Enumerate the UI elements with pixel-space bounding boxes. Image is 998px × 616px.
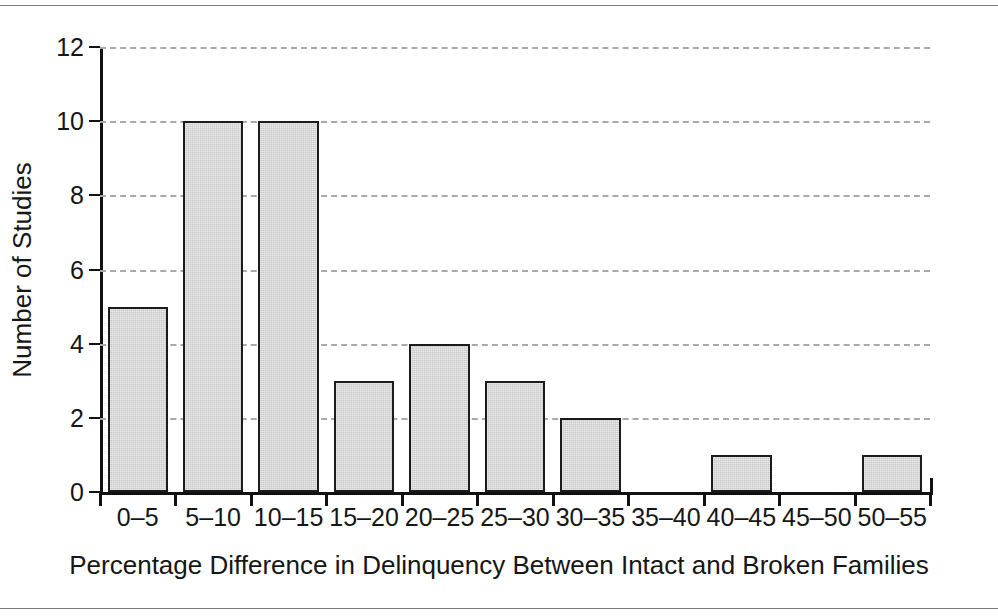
y-tick-mark	[89, 417, 100, 419]
chart-figure: Number of Studies 024681012 0–55–1010–15…	[0, 0, 998, 616]
y-axis-title-container: Number of Studies	[18, 47, 58, 492]
plot-area: 024681012	[100, 47, 930, 492]
x-tick-mark	[854, 492, 857, 506]
x-tick-label: 20–25	[402, 505, 477, 530]
x-tick-mark	[778, 492, 781, 506]
x-axis-line	[100, 492, 933, 495]
y-tick-mark	[89, 269, 100, 271]
y-axis-title: Number of Studies	[7, 100, 38, 440]
y-tick-mark	[89, 46, 100, 48]
y-tick-label: 0	[70, 480, 84, 505]
y-tick-mark	[89, 194, 100, 196]
x-tick-mark	[627, 492, 630, 506]
figure-bottom-rule	[0, 608, 998, 609]
x-tick-label: 45–50	[779, 505, 854, 530]
x-tick-label: 15–20	[326, 505, 401, 530]
y-tick-label: 4	[70, 331, 84, 356]
x-tick-label: 40–45	[704, 505, 779, 530]
bar	[258, 121, 318, 492]
y-tick-mark	[89, 343, 100, 345]
gridline	[100, 47, 930, 49]
bar	[862, 455, 922, 492]
x-tick-label: 0–5	[100, 505, 175, 530]
y-tick-mark	[89, 120, 100, 122]
bar	[711, 455, 771, 492]
bar	[334, 381, 394, 492]
x-tick-label: 30–35	[553, 505, 628, 530]
bar	[485, 381, 545, 492]
x-tick-label: 35–40	[628, 505, 703, 530]
x-tick-mark	[325, 492, 328, 506]
x-tick-mark	[929, 492, 932, 506]
x-tick-label: 25–30	[477, 505, 552, 530]
y-tick-label: 8	[70, 183, 84, 208]
x-axis-title: Percentage Difference in Delinquency Bet…	[0, 550, 998, 581]
bar	[560, 418, 620, 492]
bar	[183, 121, 243, 492]
x-tick-mark	[250, 492, 253, 506]
y-tick-label: 12	[56, 35, 84, 60]
x-tick-mark	[99, 492, 102, 506]
x-tick-mark	[703, 492, 706, 506]
y-tick-label: 10	[56, 109, 84, 134]
y-tick-label: 6	[70, 257, 84, 282]
x-tick-label: 10–15	[251, 505, 326, 530]
y-tick-label: 2	[70, 405, 84, 430]
x-tick-mark	[401, 492, 404, 506]
bar	[108, 307, 168, 492]
bar	[409, 344, 469, 492]
x-tick-mark	[174, 492, 177, 506]
x-tick-label: 5–10	[175, 505, 250, 530]
x-tick-label: 50–55	[855, 505, 930, 530]
x-tick-mark	[476, 492, 479, 506]
figure-top-rule	[0, 5, 998, 6]
x-tick-mark	[552, 492, 555, 506]
